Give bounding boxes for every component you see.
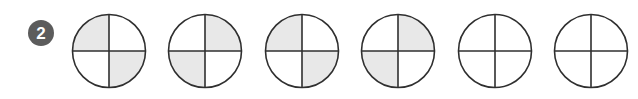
worksheet-item: 2 <box>0 0 638 99</box>
fraction-circle-2[interactable] <box>166 12 244 90</box>
item-number-label: 2 <box>36 25 45 42</box>
fraction-circle-row <box>70 10 630 92</box>
fraction-circle-1[interactable] <box>70 12 148 90</box>
fraction-circle-3[interactable] <box>263 12 341 90</box>
fraction-circle-4[interactable] <box>359 12 437 90</box>
fraction-circle-6[interactable] <box>552 12 630 90</box>
fraction-circle-5[interactable] <box>456 12 534 90</box>
item-number-badge: 2 <box>28 20 54 46</box>
